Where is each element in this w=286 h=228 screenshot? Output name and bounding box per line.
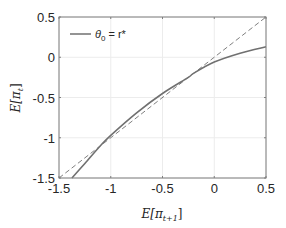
y-axis-label: E[πt] — [9, 83, 25, 113]
x-tick-label: -1 — [105, 181, 117, 196]
y-tick-label: -1.5 — [33, 171, 55, 186]
y-tick-label: 0.5 — [37, 10, 55, 25]
x-label-sub: t+1 — [163, 214, 178, 223]
y-label-end: ] — [9, 83, 23, 88]
x-label-end: ] — [178, 207, 183, 221]
y-tick-label: 0 — [48, 50, 55, 65]
x-tick-label: -0.5 — [151, 181, 173, 196]
legend-rest: = r* — [105, 28, 126, 40]
x-label-main: E[π — [140, 207, 163, 221]
y-tick-label: -0.5 — [33, 91, 55, 106]
x-tick-label: 0 — [211, 181, 218, 196]
y-tick-label: -1 — [43, 131, 55, 146]
legend: θ0 = r* — [70, 28, 127, 43]
y-label-main: E[π — [9, 90, 23, 113]
chart: -1.5-1-0.500.5-1.5-1-0.500.5 θ0 = r* E[π… — [0, 0, 286, 228]
x-axis-label: E[πt+1] — [140, 207, 182, 223]
theta-curve — [72, 47, 266, 178]
x-tick-label: 0.5 — [257, 181, 275, 196]
